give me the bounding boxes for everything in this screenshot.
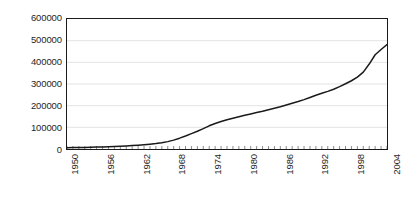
y-axis-tick-label: 100000	[31, 123, 62, 133]
y-axis-tick-label: 600000	[31, 13, 62, 23]
x-axis-tick-label: 2004	[392, 154, 402, 175]
x-axis-tick-label: 1980	[249, 154, 259, 175]
data-series-line	[67, 19, 387, 149]
x-axis-tick-label: 1998	[356, 154, 366, 175]
line-chart: 0100000200000300000400000500000600000 19…	[0, 0, 411, 200]
y-axis-tick-label: 200000	[31, 101, 62, 111]
x-axis-tick-label: 1950	[70, 154, 80, 175]
x-axis-tick-label: 1986	[285, 154, 295, 175]
x-axis-tick-labels: 1950195619621968197419801986199219982004	[66, 150, 388, 200]
y-axis-tick-label: 500000	[31, 35, 62, 45]
series-line	[67, 45, 387, 148]
y-axis-tick-labels: 0100000200000300000400000500000600000	[0, 0, 62, 200]
x-axis-tick-label: 1992	[320, 154, 330, 175]
x-axis-tick-label: 1968	[177, 154, 187, 175]
plot-area	[66, 18, 388, 150]
y-axis-tick-label: 400000	[31, 57, 62, 67]
x-axis-tick-label: 1974	[213, 154, 223, 175]
y-axis-tick-label: 0	[57, 145, 62, 155]
y-axis-tick-label: 300000	[31, 79, 62, 89]
x-axis-tick-label: 1962	[142, 154, 152, 175]
x-axis-tick-label: 1956	[106, 154, 116, 175]
